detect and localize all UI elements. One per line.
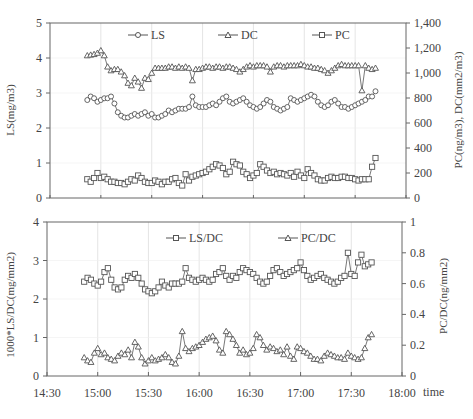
data-point	[292, 174, 297, 179]
right-tick-label: 0.4	[410, 307, 425, 321]
data-point	[210, 333, 216, 338]
data-point	[156, 285, 161, 290]
top-chart-series	[84, 48, 378, 189]
data-point	[301, 268, 306, 273]
top-chart-left-axis-label: LS(mg/m3)	[4, 84, 17, 136]
data-point	[95, 170, 100, 175]
legend-label-ls: LS	[151, 28, 165, 42]
data-point	[109, 94, 114, 99]
data-point	[227, 169, 232, 174]
data-point	[302, 175, 307, 180]
data-point	[369, 164, 374, 169]
data-point	[233, 342, 239, 347]
legend-item-dc: DC	[218, 28, 258, 42]
data-point	[362, 345, 368, 350]
circle-marker-icon	[136, 33, 141, 38]
left-tick-label: 3	[36, 86, 42, 100]
data-point	[101, 350, 107, 355]
data-point	[180, 183, 185, 188]
bottom-chart-right-axis: 00.20.40.60.81	[402, 215, 425, 383]
data-point	[189, 78, 195, 83]
data-point	[95, 345, 101, 350]
right-tick-label: 0.6	[410, 277, 425, 291]
bottom-chart-series	[81, 250, 374, 366]
top-chart-right-axis-label: PC(ng/m3), DC(mm2/m3)	[452, 51, 465, 168]
data-point	[132, 75, 138, 80]
data-point	[101, 53, 107, 58]
bottom-chart-left-axis: 01234	[33, 215, 47, 383]
series-ls	[85, 89, 378, 120]
bottom-chart-left-axis-label: 1000*LS/DC(mg/mm2)	[4, 252, 17, 358]
square-marker-icon	[174, 236, 179, 241]
data-point	[132, 178, 137, 183]
data-point	[237, 163, 242, 168]
right-tick-label: 0.2	[410, 338, 425, 352]
data-point	[190, 94, 195, 99]
data-point	[369, 331, 375, 336]
data-point	[240, 347, 246, 352]
right-tick-label: 0	[414, 191, 420, 205]
data-point	[98, 48, 104, 53]
data-point	[345, 250, 350, 255]
data-point	[358, 355, 364, 360]
left-tick-label: 2	[36, 121, 42, 135]
time-tick-label: 17:30	[338, 386, 365, 400]
data-point	[180, 279, 185, 284]
top-chart: 012345 02004006008001,0001,2001,400 LS(m…	[4, 16, 465, 205]
data-point	[112, 101, 117, 106]
data-point	[187, 105, 192, 110]
figure: 012345 02004006008001,0001,2001,400 LS(m…	[0, 0, 473, 419]
data-point	[373, 155, 378, 160]
data-point	[224, 94, 229, 99]
data-point	[149, 70, 155, 75]
left-tick-label: 3	[33, 254, 39, 268]
data-point	[359, 252, 364, 257]
legend-label-pc: PC	[335, 28, 350, 42]
legend-item-ls: LS	[128, 28, 165, 42]
series-pc-dc	[81, 328, 374, 366]
data-point	[369, 260, 374, 265]
right-tick-label: 400	[414, 141, 432, 155]
legend-item-pcdc: PC/DC	[278, 231, 336, 245]
left-tick-label: 1	[36, 156, 42, 170]
data-point	[105, 64, 111, 69]
series-ls-dc	[82, 250, 375, 296]
data-point	[298, 260, 303, 265]
data-point	[267, 69, 273, 74]
data-point	[254, 170, 259, 175]
right-tick-label: 800	[414, 91, 432, 105]
top-chart-legend: LS DC PC	[128, 28, 350, 42]
data-point	[179, 328, 185, 333]
data-point	[295, 266, 300, 271]
left-tick-label: 1	[33, 331, 39, 345]
data-point	[370, 94, 375, 99]
data-point	[139, 85, 145, 90]
left-tick-label: 2	[33, 292, 39, 306]
data-point	[183, 266, 188, 271]
time-axis-label: time	[423, 385, 444, 399]
right-tick-label: 0.8	[410, 246, 425, 260]
time-tick-label: 16:30	[236, 386, 263, 400]
data-point	[250, 345, 256, 350]
data-point	[98, 279, 103, 284]
right-tick-label: 0	[410, 369, 416, 383]
legend-item-lsdc: LS/DC	[166, 231, 223, 245]
legend-label-pcdc: PC/DC	[301, 231, 336, 245]
legend-item-pc: PC	[312, 28, 350, 42]
legend-label-dc: DC	[241, 28, 258, 42]
legend-label-lsdc: LS/DC	[189, 231, 223, 245]
data-point	[210, 277, 215, 282]
series-pc	[85, 155, 378, 188]
right-tick-label: 1	[410, 215, 416, 229]
right-tick-label: 1,400	[414, 16, 441, 30]
data-point	[359, 88, 365, 93]
series-dc	[84, 48, 378, 93]
data-point	[109, 277, 114, 282]
top-chart-right-axis: 02004006008001,0001,2001,400	[406, 16, 441, 205]
data-point	[176, 353, 182, 358]
bottom-chart-right-axis-label: PC/DC(ng/mm2)	[437, 258, 450, 334]
data-point	[352, 273, 357, 278]
data-point	[125, 347, 131, 352]
data-point	[119, 285, 124, 290]
data-point	[285, 105, 290, 110]
